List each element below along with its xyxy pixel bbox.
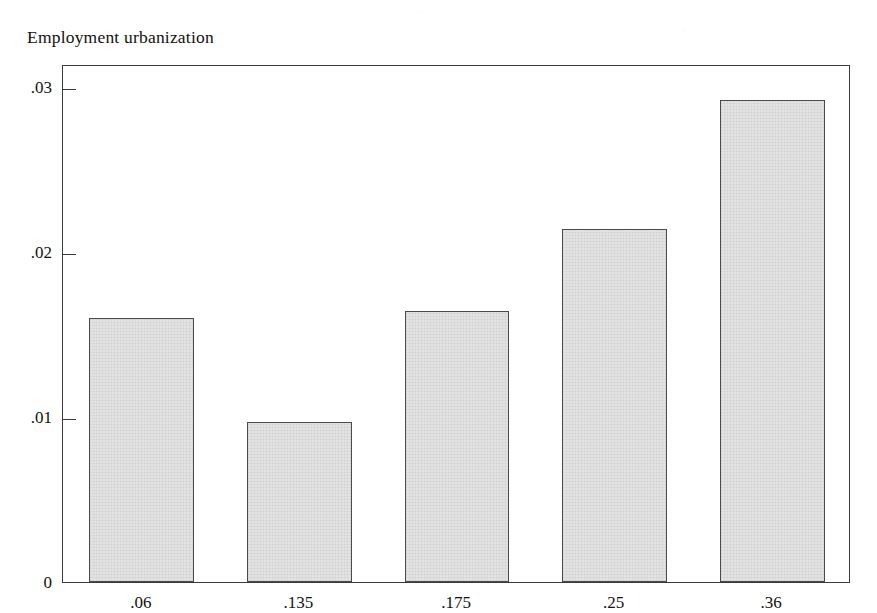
chart-title: Employment urbanization [27, 27, 214, 47]
bar-chart-figure: Employment urbanization .03.02.010 .06.1… [0, 0, 877, 613]
x-axis-tick-label: .25 [603, 594, 624, 611]
y-axis-tick-mark [63, 419, 76, 420]
x-axis-tick-label: .175 [441, 594, 471, 611]
y-axis-tick-mark [63, 254, 76, 255]
y-axis-tick-label: .03 [31, 79, 52, 96]
y-axis-tick-label: .02 [31, 244, 52, 261]
y-axis-tick-label: 0 [44, 574, 53, 591]
bar [405, 311, 510, 582]
x-axis-tick-label: .06 [130, 594, 151, 611]
bar [247, 422, 352, 582]
x-axis-tick-label: .36 [761, 594, 782, 611]
y-axis-tick-label: .01 [31, 409, 52, 426]
bar [89, 318, 194, 582]
plot-area [62, 65, 850, 583]
bar [562, 229, 667, 582]
x-axis-tick-label: .135 [284, 594, 314, 611]
y-axis-tick-mark [63, 89, 76, 90]
bar [720, 100, 825, 582]
